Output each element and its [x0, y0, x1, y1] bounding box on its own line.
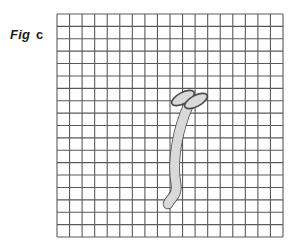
- graph-paper-grid: [0, 0, 300, 251]
- grid-lines: [57, 14, 283, 237]
- figure-container: Figc: [0, 0, 300, 251]
